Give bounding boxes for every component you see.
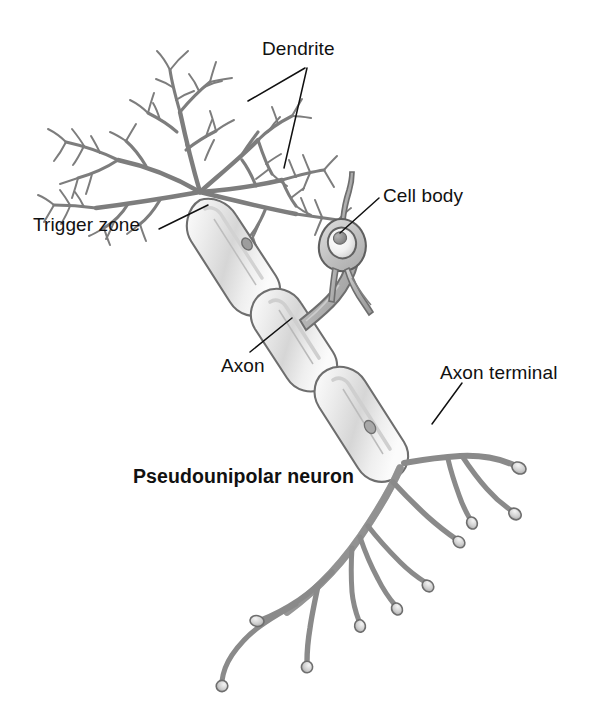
label-dendrite: Dendrite bbox=[262, 39, 335, 58]
label-cell-body: Cell body bbox=[383, 186, 463, 205]
axon-terminal-arbor bbox=[216, 456, 528, 692]
label-axon: Axon bbox=[221, 356, 265, 375]
neuron-diagram bbox=[0, 0, 598, 715]
dendrite-leader-left bbox=[248, 68, 305, 101]
label-axon-terminal: Axon terminal bbox=[440, 363, 557, 382]
figure-canvas: Dendrite Cell body Trigger zone Axon Axo… bbox=[0, 0, 598, 715]
figure-title: Pseudounipolar neuron bbox=[133, 467, 354, 487]
label-trigger-zone: Trigger zone bbox=[33, 215, 140, 234]
cell-body bbox=[319, 172, 373, 315]
axon-terminal-leader bbox=[432, 383, 462, 424]
